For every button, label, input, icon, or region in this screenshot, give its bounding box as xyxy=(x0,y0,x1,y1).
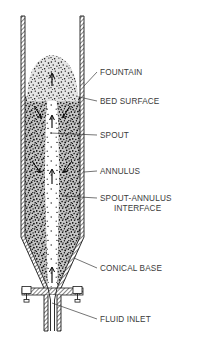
label-spout: SPOUT xyxy=(100,131,129,140)
left-wall xyxy=(21,16,25,237)
inlet-pipe-bore xyxy=(48,295,57,331)
leader-fountain xyxy=(84,72,97,86)
label-fluid-inlet: FLUID INLET xyxy=(100,315,151,324)
inlet-assembly xyxy=(22,287,83,332)
label-bed-surface: BED SURFACE xyxy=(100,97,160,106)
leader-annulus xyxy=(84,171,97,172)
spouted-bed-diagram: FOUNTAIN BED SURFACE SPOUT ANNULUS SPOUT… xyxy=(0,0,199,338)
vessel-body xyxy=(20,16,86,295)
inlet-pipe-right-wall xyxy=(57,295,61,331)
label-annulus: ANNULUS xyxy=(100,167,141,176)
label-group: FOUNTAIN BED SURFACE SPOUT ANNULUS SPOUT… xyxy=(100,68,172,324)
right-wall xyxy=(80,16,84,237)
label-fountain: FOUNTAIN xyxy=(100,68,142,77)
vessel-figure: FOUNTAIN BED SURFACE SPOUT ANNULUS SPOUT… xyxy=(0,0,199,338)
label-spout-annulus: SPOUT-ANNULUS xyxy=(100,194,172,203)
label-spout-annulus-line2: INTERFACE xyxy=(114,204,162,213)
label-conical-base: CONICAL BASE xyxy=(100,264,162,273)
leader-conical-base xyxy=(74,258,97,268)
inlet-pipe-left-wall xyxy=(44,295,48,331)
